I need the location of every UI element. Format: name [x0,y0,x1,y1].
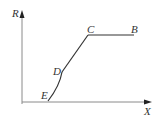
x-axis-label: X [144,106,151,117]
point-label-d: D [53,66,61,77]
y-axis-arrow-icon [20,10,25,18]
y-axis-label: R [12,8,19,19]
graph-diagram: R X E D C B [0,0,159,124]
point-label-b: B [131,24,138,35]
point-label-e: E [41,90,48,101]
line-segment-DC [62,35,88,72]
graph-canvas [0,0,159,124]
point-label-c: C [87,24,94,35]
x-axis-arrow-icon [144,100,152,105]
